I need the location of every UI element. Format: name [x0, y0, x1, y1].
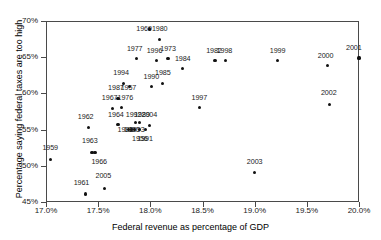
data-point-label: 1999	[270, 47, 286, 54]
data-point-label: 1997	[192, 94, 208, 101]
data-point	[49, 158, 52, 161]
y-axis-tick-mark	[41, 21, 46, 22]
x-axis-title: Federal revenue as percentage of GDP	[0, 222, 381, 232]
data-point	[84, 192, 87, 195]
x-axis-tick-label: 17.5%	[78, 206, 118, 215]
data-point-label: 1998	[217, 47, 233, 54]
data-point	[148, 124, 151, 127]
data-point-label: 2004	[141, 112, 157, 119]
data-point-label: 2001	[346, 44, 362, 51]
data-point-label: 2002	[321, 90, 337, 97]
data-point-label: 1962	[78, 113, 94, 120]
data-point	[144, 128, 147, 131]
x-axis-tick-label: 18.5%	[183, 206, 223, 215]
data-point-label: 1977	[127, 45, 143, 52]
y-axis-tick-mark	[41, 57, 46, 58]
x-axis-tick-label: 18.0%	[130, 206, 170, 215]
data-point-label: 1976	[117, 95, 133, 102]
data-point-label: 1964	[108, 112, 124, 119]
data-point-label: 1959	[42, 145, 58, 152]
data-point-label: 1966	[91, 159, 107, 166]
data-point	[166, 57, 169, 60]
data-point-label: 1963	[82, 138, 98, 145]
data-point-label: 1969	[136, 25, 152, 32]
y-axis-tick-mark	[41, 130, 46, 131]
y-axis-tick-mark	[41, 93, 46, 94]
x-axis-tick-label: 19.0%	[235, 206, 275, 215]
data-point-label: 1967	[102, 95, 118, 102]
data-point-label: 2003	[247, 159, 263, 166]
x-axis-tick-label: 19.5%	[287, 206, 327, 215]
y-axis-tick-mark	[41, 166, 46, 167]
data-point-label: 1984	[175, 55, 191, 62]
data-point-label: 2005	[96, 172, 112, 179]
data-point-label: 1973	[160, 45, 176, 52]
x-axis-tick-label: 20.0%	[339, 206, 379, 215]
data-point-label: 1957	[121, 85, 137, 92]
y-axis-title: Percentage saying federal taxes are too …	[14, 14, 24, 204]
data-point-label: 1985	[155, 70, 171, 77]
data-point	[357, 56, 360, 59]
x-axis-tick-label: 17.0%	[26, 206, 66, 215]
data-point-label: 1993	[129, 126, 145, 133]
data-point-label: 1991	[137, 135, 153, 142]
data-point-label: 1961	[74, 180, 90, 187]
data-point-label: 2000	[318, 52, 334, 59]
data-point	[103, 187, 106, 190]
scatter-plot-figure: 45%50%55%60%65%70% 17.0%17.5%18.0%18.5%1…	[0, 0, 381, 240]
data-point-label: 1980	[152, 25, 168, 32]
data-point-label: 1994	[113, 70, 129, 77]
